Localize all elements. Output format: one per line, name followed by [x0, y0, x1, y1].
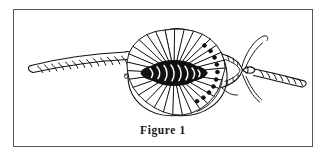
- rope-left: [28, 52, 127, 73]
- figure-caption: Figure 1: [14, 124, 312, 137]
- figure-artwork: [14, 10, 314, 122]
- rope-right: [254, 69, 307, 87]
- figure-frame: Figure 1: [13, 9, 313, 147]
- figure-root: Figure 1: [0, 0, 329, 152]
- knot-illustration: [14, 10, 314, 122]
